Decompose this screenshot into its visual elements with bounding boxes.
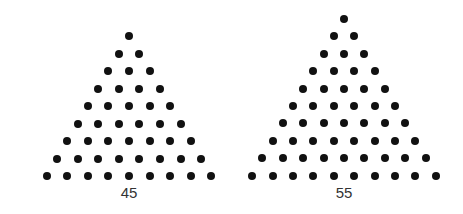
dot	[309, 172, 317, 180]
dot	[299, 154, 307, 162]
dot	[360, 85, 368, 93]
dot	[299, 119, 307, 127]
dot	[330, 67, 338, 75]
dot	[432, 172, 440, 180]
dot	[350, 32, 358, 40]
dot	[340, 85, 348, 93]
dot	[299, 85, 307, 93]
dot	[279, 119, 287, 127]
dot	[289, 137, 297, 145]
dot	[340, 119, 348, 127]
dot	[391, 172, 399, 180]
dot	[248, 172, 256, 180]
dot	[350, 102, 358, 110]
dot	[279, 154, 287, 162]
dot	[269, 137, 277, 145]
dot	[340, 154, 348, 162]
dot	[371, 137, 379, 145]
dot	[350, 172, 358, 180]
triangle-55	[0, 0, 463, 214]
dot	[391, 102, 399, 110]
dot	[269, 172, 277, 180]
triangle-label-55: 55	[314, 184, 374, 201]
dot	[340, 50, 348, 58]
dot	[309, 137, 317, 145]
dot	[411, 172, 419, 180]
dot	[330, 137, 338, 145]
dot	[350, 137, 358, 145]
dot	[330, 102, 338, 110]
dot	[381, 154, 389, 162]
dot	[320, 119, 328, 127]
dot	[309, 102, 317, 110]
dot	[360, 50, 368, 58]
dot	[330, 32, 338, 40]
dot	[258, 154, 266, 162]
dot	[381, 85, 389, 93]
dot	[289, 172, 297, 180]
dot	[360, 154, 368, 162]
dot	[350, 67, 358, 75]
dot	[371, 172, 379, 180]
dot	[320, 50, 328, 58]
dot	[422, 154, 430, 162]
dot	[330, 172, 338, 180]
dot	[381, 119, 389, 127]
dot	[371, 102, 379, 110]
dot	[401, 154, 409, 162]
dot	[289, 102, 297, 110]
dot	[401, 119, 409, 127]
dot	[309, 67, 317, 75]
dot	[411, 137, 419, 145]
dot	[320, 154, 328, 162]
dot	[391, 137, 399, 145]
dot	[360, 119, 368, 127]
dot	[371, 67, 379, 75]
dot	[320, 85, 328, 93]
triangle-label-45: 45	[99, 184, 159, 201]
dot	[340, 15, 348, 23]
